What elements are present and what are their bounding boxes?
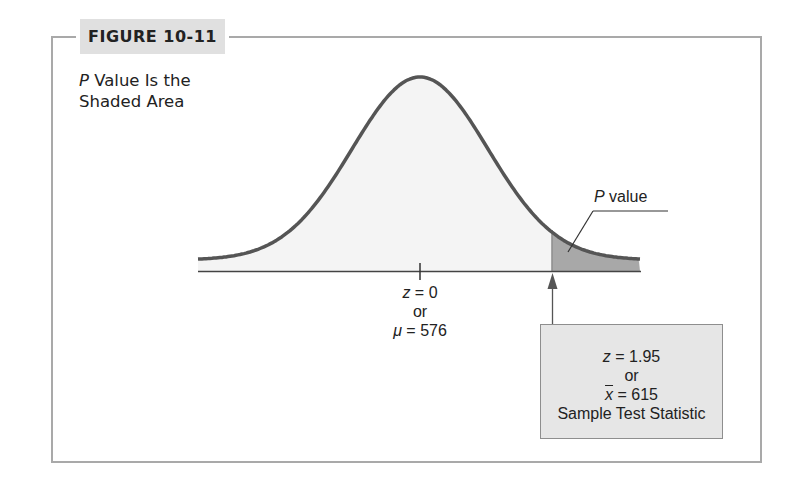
test-stat-caption: Sample Test Statistic xyxy=(557,404,705,423)
test-stat-or: or xyxy=(624,366,638,385)
p-value-shaded-tail xyxy=(553,233,640,271)
mu-symbol: μ xyxy=(393,322,402,339)
mean-or: or xyxy=(340,302,500,321)
mean-z-value: = 0 xyxy=(410,284,437,301)
xbar-symbol: x xyxy=(605,386,613,403)
z-symbol: z xyxy=(603,348,611,365)
p-value-text: value xyxy=(605,188,648,205)
mean-z-line: z = 0 xyxy=(340,283,500,302)
mean-mu-line: μ = 576 xyxy=(340,321,500,340)
test-stat-xbar-value: = 615 xyxy=(613,386,658,403)
test-stat-z-value: = 1.95 xyxy=(611,348,660,365)
mean-mu-value: = 576 xyxy=(402,322,447,339)
p-value-leader-line xyxy=(568,211,593,252)
arrow-up-icon xyxy=(548,273,558,289)
p-value-symbol: P xyxy=(594,188,605,205)
test-stat-xbar-line: x = 615 xyxy=(605,385,658,404)
test-stat-z-line: z = 1.95 xyxy=(603,347,660,366)
mean-label: z = 0 or μ = 576 xyxy=(340,283,500,340)
p-value-label: P value xyxy=(594,187,647,206)
test-statistic-box: z = 1.95 or x = 615 Sample Test Statisti… xyxy=(540,324,723,439)
